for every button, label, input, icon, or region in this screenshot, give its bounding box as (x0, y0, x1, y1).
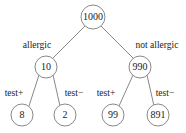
node-label-allergic: 10 (41, 62, 51, 72)
edge-label-not-allergic: not allergic (136, 41, 179, 51)
node-label-not-allergic-test-negative: 891 (151, 110, 166, 120)
edge-not-allergic-to-test-neg (147, 75, 154, 106)
edge-root-to-not-allergic (101, 26, 133, 58)
edge-label-not-allergic-test-positive: test+ (97, 89, 116, 99)
edge-label-allergic-test-negative: test− (65, 89, 84, 99)
node-label-not-allergic-test-positive: 99 (108, 110, 118, 120)
edge-label-not-allergic-test-negative: test− (156, 89, 175, 99)
node-label-not-allergic: 990 (133, 62, 148, 72)
node-label-allergic-test-positive: 8 (20, 110, 25, 120)
edge-label-allergic-test-positive: test+ (5, 89, 24, 99)
node-label-allergic-test-negative: 2 (63, 110, 68, 120)
edge-not-allergic-to-test-pos (119, 75, 133, 106)
node-label-root: 1000 (83, 12, 103, 22)
tree-diagram: 1000 10 990 8 2 99 891 allergic not alle… (0, 0, 186, 133)
edge-label-allergic: allergic (23, 41, 51, 51)
edge-root-to-allergic (53, 26, 85, 58)
edge-allergic-to-test-pos (29, 75, 39, 106)
edge-allergic-to-test-neg (53, 75, 60, 106)
